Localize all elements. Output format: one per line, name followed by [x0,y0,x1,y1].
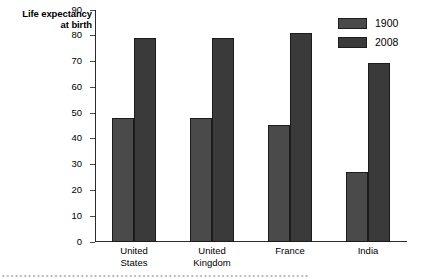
bar-chart-figure: Life expectancy at birth 010203040506070… [0,0,423,279]
y-axis-tick-label: 50 [12,107,82,118]
y-axis-tick-label: 60 [12,81,82,92]
bar [290,33,312,242]
x-axis-labels: UnitedStatesUnitedKingdomFranceIndia [95,245,407,275]
legend-item: 1900 [338,17,420,33]
legend-label: 1900 [375,16,398,30]
bar [134,38,156,242]
y-axis-tick-label: 10 [12,210,82,221]
x-axis-label-line: United [173,245,251,257]
clipped-caption-text: • • • • • • • • • • • • • • • • • • • • … [0,272,423,279]
x-axis-label-line: United [95,245,173,257]
legend-label: 2008 [375,35,398,49]
y-axis-tick-label: 90 [12,4,82,15]
x-axis-label: India [329,245,407,257]
y-axis-tick-label: 30 [12,158,82,169]
bar [268,125,290,242]
clipped-caption: • • • • • • • • • • • • • • • • • • • • … [0,272,423,279]
x-axis-label: France [251,245,329,257]
bar [346,172,368,242]
legend-swatch [338,37,367,48]
bar [112,118,134,242]
bar [368,63,390,242]
x-axis-label-line: India [329,245,407,257]
x-axis-label: UnitedKingdom [173,245,251,268]
bar [190,118,212,242]
y-axis-tick-label: 0 [12,236,82,247]
bar-group [190,10,234,242]
y-axis-tick-label: 70 [12,55,82,66]
y-axis-tick-label: 80 [12,29,82,40]
y-axis-tick-label: 20 [12,184,82,195]
x-axis-label: UnitedStates [95,245,173,268]
y-axis-tick-label: 40 [12,132,82,143]
legend-swatch [338,18,367,29]
x-axis-label-line: States [95,257,173,269]
x-axis-label-line: Kingdom [173,257,251,269]
chart-legend: 19002008 [338,17,420,55]
legend-item: 2008 [338,36,420,52]
bar-group [112,10,156,242]
x-axis-label-line: France [251,245,329,257]
bar-group [268,10,312,242]
bar [212,38,234,242]
